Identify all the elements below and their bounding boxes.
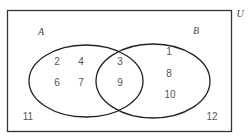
element-a-only: 4 (78, 57, 84, 67)
universe-label: U (236, 9, 243, 19)
set-b-label: B (193, 26, 199, 36)
element-intersection: 3 (117, 57, 123, 67)
element-a-only: 6 (54, 78, 60, 88)
set-b-ellipse (96, 44, 210, 118)
element-a-only: 7 (78, 78, 84, 88)
element-b-only: 10 (164, 90, 175, 100)
element-a-only: 2 (54, 57, 60, 67)
element-b-only: 8 (166, 69, 172, 79)
element-outside: 12 (206, 112, 217, 122)
element-outside: 11 (23, 112, 33, 122)
set-a-ellipse (29, 45, 143, 117)
element-b-only: 1 (166, 47, 172, 57)
element-intersection: 9 (117, 78, 123, 88)
set-a-label: A (38, 27, 44, 37)
